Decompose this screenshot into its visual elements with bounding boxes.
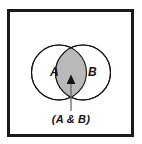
venn-diagram-figure: A B (A & B)	[0, 0, 142, 144]
set-b-label: B	[88, 66, 97, 78]
intersection-caption: (A & B)	[0, 113, 142, 125]
set-a-label: A	[50, 66, 59, 78]
